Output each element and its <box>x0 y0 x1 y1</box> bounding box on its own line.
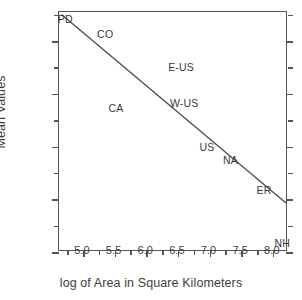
x-tick-label: 5.5 <box>106 244 122 256</box>
x-tick-minor <box>99 250 101 255</box>
y-tick-major-right <box>286 41 293 43</box>
y-tick-minor <box>54 67 59 69</box>
x-tick-label: 6.5 <box>169 244 185 256</box>
y-tick-minor-right <box>288 15 293 17</box>
y-axis-title: Mean Values <box>0 75 8 148</box>
data-point-label: NA <box>223 154 238 166</box>
plot-area: PDCOCAE-USW-USUSNAERNH <box>58 11 287 251</box>
x-tick-minor <box>130 250 132 255</box>
x-axis-title: log of Area in Square Kilometers <box>0 276 302 290</box>
y-tick-major <box>52 199 59 201</box>
y-tick-minor <box>54 173 59 175</box>
data-point-label: W-US <box>170 97 199 109</box>
y-tick-major-right <box>286 94 293 96</box>
y-tick-minor <box>54 120 59 122</box>
y-tick-minor-right <box>288 226 293 228</box>
y-tick-minor <box>54 226 59 228</box>
y-tick-minor-right <box>288 120 293 122</box>
y-tick-minor-right <box>288 67 293 69</box>
data-point-label: PD <box>58 13 73 25</box>
y-tick-major <box>52 252 59 254</box>
trend-line-svg <box>59 12 286 250</box>
y-tick-major <box>52 41 59 43</box>
y-tick-major-right <box>286 147 293 149</box>
data-point-label: ER <box>256 184 271 196</box>
x-tick-minor <box>225 250 227 255</box>
x-tick-minor <box>162 250 164 255</box>
chart-figure: PDCOCAE-USW-USUSNAERNH 0.40.81.21.62.0 5… <box>0 0 302 300</box>
x-tick-label: 8.0 <box>264 244 280 256</box>
y-tick-major-right <box>286 252 293 254</box>
data-point-label: US <box>200 141 215 153</box>
y-tick-major <box>52 94 59 96</box>
x-tick-minor <box>194 250 196 255</box>
x-tick-label: 7.0 <box>201 244 217 256</box>
x-tick-minor <box>67 250 69 255</box>
y-tick-minor-right <box>288 173 293 175</box>
y-tick-major <box>52 147 59 149</box>
data-point-label: CO <box>97 28 113 40</box>
x-tick-label: 6.0 <box>138 244 154 256</box>
x-tick-minor <box>257 250 259 255</box>
data-point-label: CA <box>108 102 123 114</box>
y-tick-major-right <box>286 199 293 201</box>
x-tick-label: 5.0 <box>74 244 90 256</box>
x-tick-label: 7.5 <box>232 244 248 256</box>
data-point-label: E-US <box>168 61 194 73</box>
